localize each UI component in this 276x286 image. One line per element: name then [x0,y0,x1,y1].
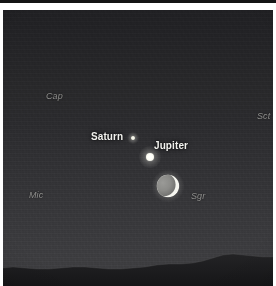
saturn-point [131,136,135,140]
sky-photograph: Saturn Jupiter Cap Mic Sct Sgr [3,10,273,286]
crescent-moon-icon [151,168,185,204]
label-constellation-sagittarius: Sgr [191,192,205,201]
label-constellation-scutum: Sct [257,112,270,121]
label-constellation-capricornus: Cap [46,92,63,101]
top-frame-rule [0,0,276,3]
jupiter-point [146,153,154,161]
horizon-ridgeline [3,228,273,286]
label-saturn: Saturn [91,132,123,142]
label-jupiter: Jupiter [154,141,188,151]
page-root: Saturn Jupiter Cap Mic Sct Sgr [0,0,276,286]
label-constellation-microscopium: Mic [29,191,43,200]
